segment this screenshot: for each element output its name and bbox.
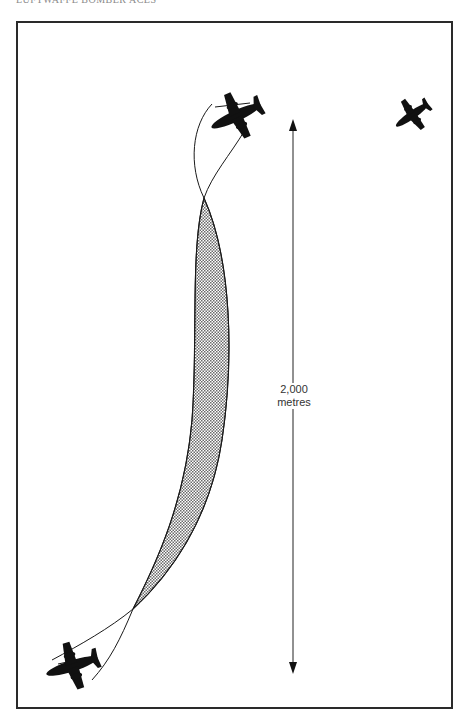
arrowhead-up-icon: [289, 119, 297, 131]
bomber-silhouette-icon: [39, 635, 106, 698]
distance-value-label: 2,000: [268, 383, 320, 396]
overlap-zone: [133, 198, 229, 609]
fire-line-top-right: [204, 130, 245, 198]
fire-line-bottom-right: [92, 609, 133, 680]
distance-unit-label: metres: [268, 396, 320, 409]
bomber-silhouette-icon: [386, 89, 438, 140]
attacking-aircraft-bottom: [39, 635, 106, 698]
fire-line-top-left: [194, 104, 212, 198]
target-aircraft-right: [386, 89, 438, 140]
crossfire-diagram: [0, 0, 468, 722]
bomber-silhouette-icon: [201, 82, 271, 149]
arrowhead-down-icon: [289, 662, 297, 674]
attacking-aircraft-top: [201, 82, 271, 149]
